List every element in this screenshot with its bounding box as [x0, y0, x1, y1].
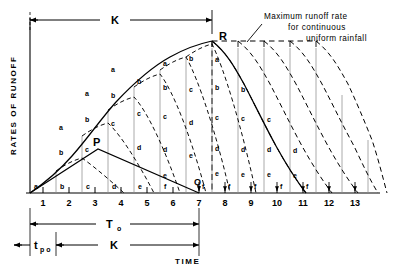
segment-letter: c [111, 120, 115, 127]
segment-letter: b [59, 149, 63, 156]
baseline-letter: f [306, 183, 309, 190]
baseline-letter: f [254, 183, 257, 190]
x-tick-label: 7 [196, 198, 201, 208]
segment-letter: a [85, 90, 89, 97]
baseline-letter: f [164, 183, 167, 190]
dimension-tpo-K: t p o K [14, 232, 199, 256]
segment-letter: b [189, 55, 193, 62]
segment-letter: c [163, 113, 167, 120]
x-axis-title: TIME [175, 257, 201, 266]
segment-letter: c [215, 114, 219, 121]
segment-letter: a [111, 66, 115, 73]
segment-letter: e [215, 170, 219, 177]
segment-letter: b [163, 84, 167, 91]
dimension-label-tpo: t [34, 239, 38, 251]
baseline-letter: f [228, 183, 231, 190]
x-tick-label: 8 [222, 198, 227, 208]
segment-letter: b [241, 86, 245, 93]
segment-letter: a [59, 124, 63, 131]
segment-letter: b [137, 78, 141, 85]
annotation-line-3: uniform rainfall [306, 34, 367, 43]
x-tick-label: 12 [324, 198, 334, 208]
x-tick-label: 6 [170, 198, 175, 208]
segment-letter: b [215, 84, 219, 91]
x-tick-label: 11 [298, 198, 308, 208]
dimension-label-K-bottom: K [110, 239, 118, 251]
x-tick-label: 4 [118, 198, 123, 208]
segment-letter: e [267, 171, 271, 178]
baseline-letter: e [138, 183, 142, 190]
y-axis-title: RATES OF RUNOFF [9, 56, 18, 155]
segment-letter: b [111, 92, 115, 99]
x-tick-label: 13 [350, 198, 360, 208]
x-axis-tick-labels: 1 2 3 4 5 6 7 8 9 10 11 12 13 [40, 198, 360, 208]
segment-letter: d [163, 146, 167, 153]
annotation-line-2: for continuous [288, 23, 346, 32]
baseline-letter: a [34, 183, 38, 190]
segment-letter: d [293, 147, 297, 154]
baseline-letter: f [280, 183, 283, 190]
segment-letter: a [163, 60, 167, 67]
segment-letter: d [189, 119, 193, 126]
baseline-letter-labels: a b c d e f f f f f f [34, 183, 309, 190]
baseline-letter: c [86, 183, 90, 190]
segment-letter: c [189, 86, 193, 93]
point-label-P: P [93, 136, 100, 148]
dimension-sublabel-tpo: p o [40, 246, 51, 254]
dimension-sublabel-To: o [117, 225, 121, 232]
x-tick-label: 9 [248, 198, 253, 208]
annotation-text: Maximum runoff rate for continuous unifo… [264, 12, 367, 43]
dimension-label-K-top: K [111, 14, 119, 26]
segment-letter: e [163, 172, 167, 179]
point-label-R: R [219, 30, 227, 42]
total-runoff-curve [30, 41, 306, 193]
segment-letter: c [267, 116, 271, 123]
segment-letter: d [241, 146, 245, 153]
segment-letter: d [137, 144, 141, 151]
baseline-arrows [199, 182, 355, 191]
annotation-line-1: Maximum runoff rate [264, 12, 347, 21]
segment-letter: a [215, 56, 219, 63]
segment-letter: c [85, 146, 89, 153]
segment-letter: d [267, 146, 271, 153]
segment-letter: d [215, 145, 219, 152]
dimension-K-top: K [30, 10, 212, 34]
hydrograph-figure: K Maximum runoff rate for continuous uni… [0, 0, 403, 269]
baseline-letter: b [60, 183, 64, 190]
baseline-letter: d [112, 183, 116, 190]
segment-letter: b [85, 116, 89, 123]
x-tick-label: 1 [40, 198, 45, 208]
x-tick-label: 2 [66, 198, 71, 208]
dimension-label-To: T [106, 218, 113, 230]
annotation-leader-line [247, 24, 262, 42]
segment-letter: c [241, 115, 245, 122]
segment-letter: c [137, 110, 141, 117]
segment-letter: e [241, 171, 245, 178]
point-label-Q: Q [194, 177, 201, 187]
x-tick-label: 3 [92, 198, 97, 208]
axes [26, 18, 380, 193]
x-tick-label: 5 [144, 198, 149, 208]
segment-letter: e [189, 152, 193, 159]
x-tick-label: 10 [272, 198, 282, 208]
segment-letter: e [293, 172, 297, 179]
